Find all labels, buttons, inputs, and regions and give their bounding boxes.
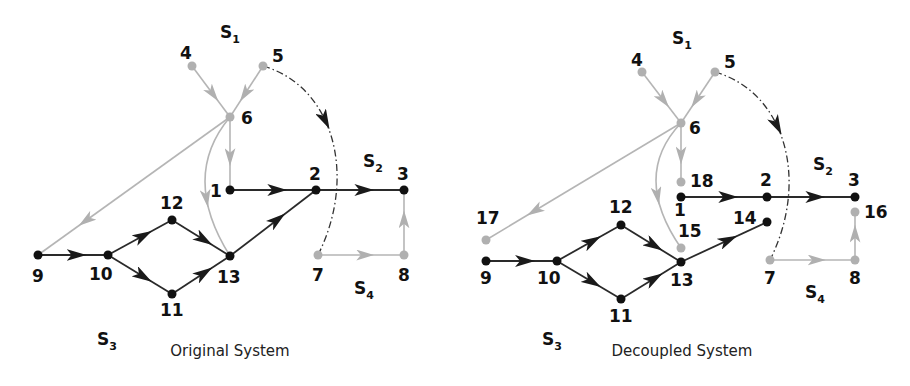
node-10	[104, 251, 113, 260]
node-label: 10	[89, 264, 113, 284]
node-7	[766, 256, 775, 265]
node-5	[259, 62, 268, 71]
node-label: 6	[689, 118, 701, 138]
subsystem-label: S4	[805, 282, 825, 306]
diagram-canvas: 45612312139101178S1S2S3S4Original System…	[0, 0, 910, 386]
node-label: 11	[609, 306, 633, 326]
labels-layer: 45612312139101178S1S2S3S4Original System…	[32, 22, 888, 360]
node-10	[553, 257, 562, 266]
node-17	[482, 236, 491, 245]
node-label: 18	[690, 171, 714, 191]
subsystem-label: S1	[220, 22, 240, 46]
edge	[621, 225, 681, 262]
node-label: 8	[849, 268, 861, 288]
node-label: 2	[760, 170, 772, 190]
node-label: 13	[670, 270, 694, 290]
node-label: 7	[312, 265, 324, 285]
node-label: 5	[724, 52, 736, 72]
subsystem-label: S2	[363, 151, 383, 175]
node-3	[400, 186, 409, 195]
subsystem-label: S4	[354, 278, 374, 302]
node-18	[677, 178, 686, 187]
edges-layer	[38, 66, 855, 299]
coupling-arc	[263, 66, 337, 255]
node-2	[312, 186, 321, 195]
node-11	[617, 295, 626, 304]
node-label: 2	[309, 164, 321, 184]
node-12	[617, 221, 626, 230]
edge	[108, 255, 172, 294]
node-12	[168, 216, 177, 225]
node-label: 4	[631, 50, 643, 70]
subsystem-label: S2	[813, 154, 833, 178]
nodes-layer	[34, 62, 860, 304]
node-label: 9	[480, 268, 492, 288]
node-label: 17	[476, 208, 500, 228]
node-label: 3	[397, 164, 409, 184]
node-8	[400, 251, 409, 260]
edge	[192, 66, 230, 117]
node-label: 3	[848, 170, 860, 190]
node-label: 9	[32, 266, 44, 286]
edge	[486, 123, 681, 240]
node-label: 1	[210, 181, 222, 201]
node-label: 5	[272, 46, 284, 66]
graph-svg: 45612312139101178S1S2S3S4Original System…	[0, 0, 910, 386]
node-label: 16	[864, 202, 888, 222]
node-14	[763, 218, 772, 227]
edge	[230, 190, 316, 256]
node-label: 15	[678, 221, 702, 241]
edge	[38, 117, 230, 255]
edge	[172, 220, 230, 256]
panel-caption: Original System	[170, 342, 289, 360]
node-6	[226, 113, 235, 122]
node-9	[482, 257, 491, 266]
node-label: 14	[733, 208, 757, 228]
node-11	[168, 290, 177, 299]
node-8	[851, 256, 860, 265]
node-15	[677, 244, 686, 253]
node-label: 12	[609, 197, 633, 217]
subsystem-label: S3	[97, 329, 117, 353]
node-13	[226, 252, 235, 261]
node-1	[226, 186, 235, 195]
edge	[557, 261, 621, 299]
node-label: 12	[160, 193, 184, 213]
edge	[681, 72, 715, 123]
node-5	[711, 68, 720, 77]
node-label: 6	[241, 108, 253, 128]
edge	[642, 72, 681, 123]
subsystem-label: S3	[542, 329, 562, 353]
node-6	[677, 119, 686, 128]
node-3	[851, 193, 860, 202]
node-label: 11	[160, 300, 184, 320]
node-label: 4	[180, 43, 192, 63]
node-16	[851, 208, 860, 217]
subsystem-label: S1	[672, 28, 692, 52]
edge	[557, 225, 621, 261]
node-label: 7	[764, 268, 776, 288]
node-13	[677, 258, 686, 267]
node-label: 1	[674, 200, 686, 220]
node-label: 8	[398, 265, 410, 285]
node-label: 13	[217, 267, 241, 287]
node-7	[314, 251, 323, 260]
coupling-arc	[715, 72, 789, 260]
edge	[108, 220, 172, 255]
panel-caption: Decoupled System	[612, 342, 753, 360]
node-2	[763, 193, 772, 202]
node-9	[34, 251, 43, 260]
node-label: 10	[537, 268, 561, 288]
